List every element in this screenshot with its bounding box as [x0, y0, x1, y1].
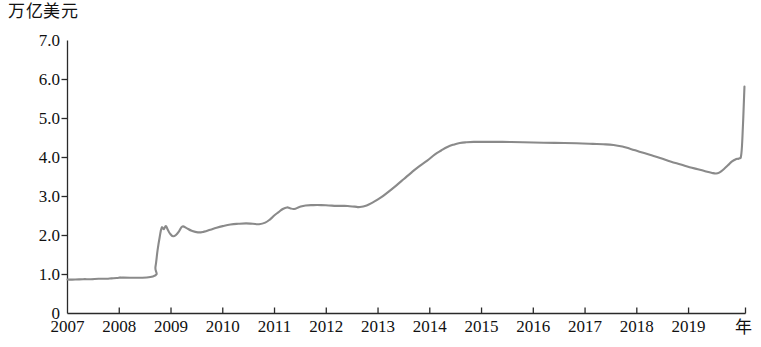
y-axis-ticks [62, 80, 68, 275]
plot-area [0, 0, 761, 347]
chart-container: 万亿美元 年 7.06.05.04.03.02.01.00 2007200820… [0, 0, 761, 347]
x-axis-ticks [119, 308, 745, 314]
data-series-line [68, 87, 745, 280]
